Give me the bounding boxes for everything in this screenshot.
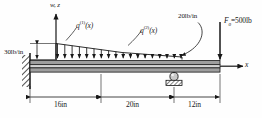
load-label-q1: q(1)(x) <box>76 20 93 29</box>
beam-bottom-flange <box>30 68 220 72</box>
axis-label-wz: w, z <box>50 2 60 9</box>
beam-web <box>30 65 220 68</box>
point-force-label: F0=500lb <box>224 17 252 27</box>
dimension-label-3: 12in <box>188 101 201 109</box>
fixed-wall-support <box>22 53 30 89</box>
roller-circle <box>170 72 178 80</box>
load-intensity-label-left: 30lb/in <box>4 49 23 56</box>
leader-20lb-curve <box>182 23 203 56</box>
load-intensity-label-right: 20lb/in <box>178 13 197 20</box>
beam-diagram-figure: w, z x q(1)(x) q(2)(x) 20lb/in 30lb/in F… <box>0 0 262 118</box>
dimension-label-2: 20in <box>126 101 139 109</box>
q2-argument: (x) <box>149 26 157 35</box>
leader-lines <box>66 28 142 46</box>
leader-q1 <box>66 28 77 41</box>
dimension-chain <box>30 74 220 103</box>
beam-top-flange <box>30 61 220 65</box>
dimension-30lb <box>30 44 57 60</box>
wall-hatching <box>22 55 30 87</box>
load-label-q2: q(2)(x) <box>140 25 157 34</box>
roller-support <box>166 72 182 85</box>
f0-value: =500lb <box>231 16 252 25</box>
roller-highlight <box>171 74 174 77</box>
leader-20lb <box>182 23 203 56</box>
q1-argument: (x) <box>85 21 93 30</box>
roller-base-hatching <box>166 80 182 85</box>
dimension-label-1: 16in <box>54 101 67 109</box>
beam-body <box>30 61 220 73</box>
axis-label-x: x <box>245 61 248 69</box>
distributed-load-envelope <box>56 44 182 60</box>
load-profile-curve <box>56 44 182 58</box>
